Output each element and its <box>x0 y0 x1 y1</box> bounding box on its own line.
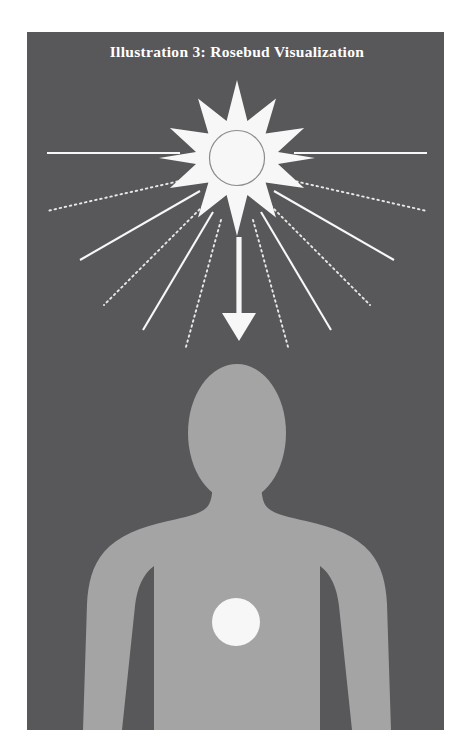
panel-grain-overlay <box>27 32 444 730</box>
illustration-container: Illustration 3: Rosebud Visualization <box>0 0 470 756</box>
rosebud-visualization-illustration: Illustration 3: Rosebud Visualization <box>0 0 470 756</box>
illustration-title: Illustration 3: Rosebud Visualization <box>110 43 364 60</box>
